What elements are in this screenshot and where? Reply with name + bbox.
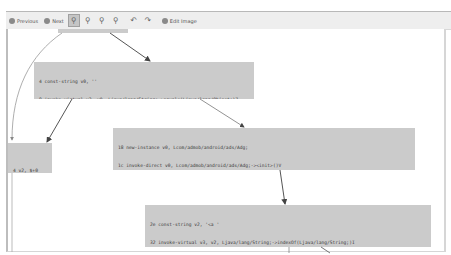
zoom-fit-button[interactable]: ⚲: [110, 14, 122, 27]
graph-block-1[interactable]: 4 const-string v0, '' 8 invoke-virtual v…: [34, 62, 254, 99]
previous-button[interactable]: Previous: [6, 14, 41, 28]
next-icon: [44, 18, 50, 24]
previous-icon: [9, 18, 15, 24]
rotate-left-button[interactable]: ↶: [128, 14, 140, 27]
next-label: Next: [52, 18, 64, 24]
edit-image-icon: [162, 18, 168, 24]
code-line: 2e const-string v2, '<a ': [150, 222, 426, 228]
graph-block-3[interactable]: 2e const-string v2, '<a ' 32 invoke-virt…: [145, 205, 431, 247]
edit-image-button[interactable]: Edit Image: [159, 14, 200, 28]
zoom-in-icon: ⚲: [85, 16, 91, 25]
zoom-fit-icon: ⚲: [113, 16, 119, 25]
code-line: 18 new-instance v0, Lcom/admob/android/a…: [118, 145, 410, 151]
zoom-out-icon: ⚲: [99, 16, 105, 25]
rotate-right-icon: ↷: [144, 16, 151, 25]
edit-image-label: Edit Image: [170, 18, 197, 24]
graph-block-top[interactable]: [58, 29, 128, 33]
previous-label: Previous: [17, 18, 38, 24]
code-line: 1c invoke-direct v0, Lcom/admob/android/…: [118, 163, 410, 169]
zoom-out-button[interactable]: ⚲: [96, 14, 108, 27]
zoom-select-button[interactable]: ⚲: [68, 14, 80, 27]
zoom-in-button[interactable]: ⚲: [82, 14, 94, 27]
code-line: 4 const-string v0, '': [39, 79, 249, 85]
rotate-right-button[interactable]: ↷: [142, 14, 154, 27]
next-button[interactable]: Next: [41, 14, 67, 28]
magnifier-icon: ⚲: [71, 16, 77, 25]
rotate-left-icon: ↶: [130, 16, 137, 25]
image-viewer-toolbar: Previous Next ⚲ ⚲ ⚲ ⚲ ↶ ↷ Edit Image: [6, 11, 451, 30]
code-line: 8 invoke-virtual v3, v0, Ljava/lang/Stri…: [39, 97, 249, 99]
graph-block-left[interactable]: 4 v2, $+0: [8, 143, 52, 173]
code-line: 32 invoke-virtual v3, v2, Ljava/lang/Str…: [150, 240, 426, 246]
code-line: 4 v2, $+0: [13, 168, 47, 173]
graph-block-2[interactable]: 18 new-instance v0, Lcom/admob/android/a…: [113, 128, 415, 170]
